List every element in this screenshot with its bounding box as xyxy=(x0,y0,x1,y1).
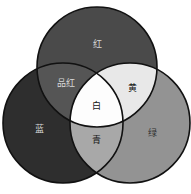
label-green: 绿 xyxy=(148,127,157,138)
label-red: 红 xyxy=(93,38,102,49)
label-blue: 蓝 xyxy=(35,123,44,134)
venn-diagram-container: 红 蓝 绿 品红 黄 青 白 xyxy=(0,0,191,194)
label-cyan: 青 xyxy=(92,134,101,145)
label-magenta: 品红 xyxy=(57,77,75,88)
venn-diagram-canvas: 红 蓝 绿 品红 黄 青 白 xyxy=(0,0,191,194)
label-white: 白 xyxy=(92,100,101,111)
label-yellow: 黄 xyxy=(128,82,137,93)
